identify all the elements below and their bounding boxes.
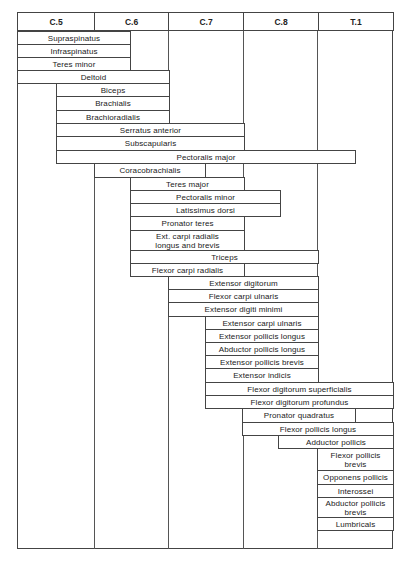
muscle-bar: Pectoralis minor <box>130 190 281 204</box>
muscle-bar: Pronator teres <box>130 216 245 231</box>
muscle-bar: Brachialis <box>56 96 170 111</box>
muscle-bar: Extensor indicis <box>205 368 319 383</box>
muscle-bar: Extensor pollicis longus <box>205 329 319 343</box>
muscle-bar: Extensor pollicis brevis <box>205 355 319 369</box>
muscle-bar: Infraspinatus <box>17 44 131 58</box>
muscle-bar: Flexor digitorum profundus <box>205 395 394 409</box>
column-header: T.1 <box>318 12 394 31</box>
muscle-bar: Flexor carpi radialis <box>130 263 245 277</box>
muscle-bar: Supraspinatus <box>17 31 131 45</box>
muscle-bar: Brachioradialis <box>56 110 170 124</box>
muscle-bar: Flexor digitorum superficialis <box>205 382 394 396</box>
column-header: C.5 <box>17 12 95 31</box>
muscle-bar: Biceps <box>56 83 170 97</box>
muscle-bar: Flexor carpi ulnaris <box>168 289 319 303</box>
muscle-bar: Teres major <box>130 177 245 191</box>
muscle-bar: Opponens pollicis <box>317 470 394 485</box>
muscle-bar: Extensor carpi ulnaris <box>205 316 319 330</box>
muscle-bar: Flexor pollicis longus <box>242 422 394 436</box>
myotome-chart: C.5C.6C.7C.8T.1 SupraspinatusInfraspinat… <box>0 0 406 568</box>
muscle-bar: Interossei <box>317 484 394 498</box>
muscle-bar: Abductor pollicis longus <box>205 342 319 356</box>
muscle-bar: Extensor digitorum <box>168 276 319 290</box>
muscle-bar: Pectoralis major <box>56 150 356 164</box>
column-header: C.8 <box>243 12 319 31</box>
muscle-bar: Deltoid <box>17 70 170 84</box>
muscle-bar: Coracobrachialis <box>94 163 206 178</box>
muscle-bar: Adductor pollicis <box>278 435 394 449</box>
muscle-bar: Ext. carpi radialis longus and brevis <box>130 230 245 251</box>
muscle-bar: Pronator quadratus <box>242 408 356 423</box>
muscle-bar: Lumbricals <box>317 517 394 531</box>
muscle-bar: Teres minor <box>17 57 131 71</box>
muscle-bar: Subscapularis <box>56 136 245 151</box>
muscle-bar: Latissimus dorsi <box>130 203 281 217</box>
column-header: C.6 <box>94 12 169 31</box>
column-header: C.7 <box>168 12 244 31</box>
muscle-bar: Abductor pollicis brevis <box>317 497 394 518</box>
muscle-bar: Serratus anterior <box>56 123 245 137</box>
grid-line <box>94 163 95 549</box>
muscle-bar: Flexor pollicis brevis <box>317 448 394 471</box>
muscle-bar: Extensor digiti minimi <box>168 302 319 317</box>
muscle-bar: Triceps <box>130 250 319 264</box>
